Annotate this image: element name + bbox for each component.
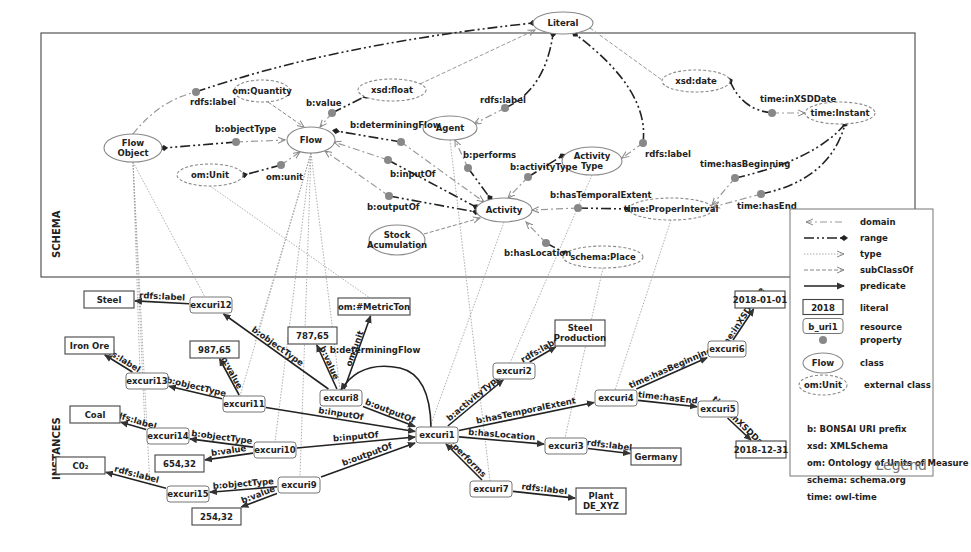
property-dot-icon [192,88,200,96]
class-label: Activity [486,205,523,215]
property-dot-icon [757,190,765,198]
class-om-quantity: om:Quantity [232,80,292,102]
literal-label: 987,65 [198,345,231,355]
literal-label: 2018-01-01 [733,295,787,305]
resource-label: excuri6 [709,344,744,354]
type-edge [615,220,671,390]
literal-co2: C0₂ [56,457,105,474]
resource-label: excuri10 [254,445,295,455]
property-dot-icon [464,164,472,172]
resource-excuri12: excuri12 [190,297,232,313]
schema-edge [325,151,389,196]
legend-label: class [860,358,884,368]
predicate-label: rdfs:label [113,464,160,485]
resource-excuri7: excuri7 [470,481,512,497]
property-dot-icon [397,138,405,146]
resource-label: excuri15 [167,489,208,499]
property-dot-icon [768,109,776,117]
literal-d20180101: 2018-01-01 [733,291,787,308]
literal-metric-ton: om:#MetricTon [338,298,410,315]
legend-label: range [860,233,888,243]
property-dot-icon [277,161,285,169]
resource-label: excuri9 [281,480,316,490]
class-label: Flow [300,135,323,145]
property-label: b:outputOf [367,202,420,212]
literal-label: Germany [634,452,678,462]
property-label: rdfs:label [645,149,691,159]
class-stock-accumulation: StockAcumulation [367,225,427,255]
schema-edge [712,178,735,205]
literal-steel: Steel [84,291,134,308]
schema-edge [133,92,196,134]
legend-prefix: xsd: XMLSchema [807,441,888,451]
class-time-instant: time:Instant [805,102,875,124]
legend-prefix: time: owl-time [807,492,877,502]
legend-label: predicate [860,281,906,291]
property-dot-icon [731,174,739,182]
resource-label: excuri14 [147,431,188,441]
resource-excuri11: excuri11 [223,396,265,412]
class-xsd-date: xsd:date [662,70,730,92]
resource-label: excuri1 [419,430,454,440]
resource-excuri13: excuri13 [126,373,168,389]
legend: domainrangetypesubClassOfpredicate2018li… [790,209,969,502]
property-dot-icon [232,138,240,146]
resource-excuri3: excuri3 [545,438,587,454]
property-label: om:unit [266,172,303,182]
predicate-label: b:hasTemporalExtent [475,395,577,425]
schema-edge [468,168,490,198]
property-label: b:value [306,98,342,108]
schema-classes: Literalom:Quantityxsd:floatxsd:datetime:… [104,12,875,268]
class-label: time:ProperInterval [624,204,719,214]
predicate-label: b:value [210,443,247,458]
property-dot-icon [328,109,336,117]
class-label: xsd:float [371,85,413,95]
class-om-unit: om:Unit [177,164,243,186]
literal-iron-ore: Iron Ore [65,337,114,354]
property-dot-icon [384,156,392,164]
predicate-label: time:hasBeginning [627,345,714,391]
schema-edge [508,177,528,198]
type-edge [300,153,311,477]
schema-edge [334,142,388,160]
resource-excuri6: excuri6 [708,341,746,357]
class-activity: Activity [476,198,532,222]
literal-d20181231: 2018-12-31 [734,441,788,458]
schema-edge [590,28,662,80]
resource-excuri14: excuri14 [147,428,189,444]
literal-plant-de-xyz: PlantDE_XYZ [576,488,626,514]
property-dot-icon [574,204,582,212]
legend-sample: 2018 [811,303,835,313]
schema-edge [575,34,644,143]
predicate-label: b:value [219,355,245,391]
literal-label: Coal [85,410,106,420]
schema-edge [474,108,505,124]
resource-excuri8: excuri8 [320,390,362,406]
resource-excuri1: excuri1 [416,427,458,443]
type-edge [565,268,603,438]
property-dot-icon [501,104,509,112]
resource-label: excuri8 [323,393,358,403]
property-label: b:objectType [215,124,277,134]
schema-properties: rdfs:labelb:valueb:objectTypeb:determini… [190,88,837,258]
legend-label: type [860,249,882,259]
schema-edge [336,131,401,142]
class-label: Literal [548,18,579,28]
literal-coal: Coal [70,406,120,423]
legend-label: resource [860,322,902,332]
literal-germany: Germany [631,448,681,465]
predicate-label: b:objectType [165,375,227,399]
property-label: b:inputOf [390,169,436,179]
legend-sample: Flow [812,358,835,368]
literal-v98765: 987,65 [190,341,239,358]
predicate-label: b:determiningFlow [330,345,421,355]
property-label: time:hasBeginning [700,159,790,169]
property-dot-icon [542,239,550,247]
class-flow: Flow [287,127,335,153]
class-literal: Literal [533,12,593,34]
instance-edges: rdfs:labelb:objectTyperdfs:labelb:object… [98,285,773,507]
literal-label: 787,65 [296,331,329,341]
legend-label: subClassOf [860,265,913,275]
property-label: rdfs:label [190,97,236,107]
resource-excuri4: excuri4 [595,390,637,406]
